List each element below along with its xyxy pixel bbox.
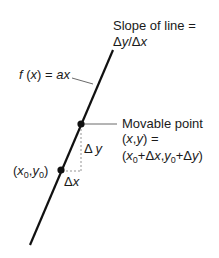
movable-point-label: Movable point (x,y) = (x0+Δx,y0+Δy) [122, 117, 203, 163]
slope-label-line2: Δy/Δx [113, 35, 196, 49]
initial-point-label: (x0,y0) [13, 164, 48, 178]
movable-point-title: Movable point [122, 117, 203, 131]
slope-label-line1: Slope of line = [113, 19, 196, 33]
delta-x-label: Δx [64, 175, 79, 189]
delta-y-label: Δ y [84, 142, 102, 156]
function-label-leader [72, 78, 93, 84]
movable-point-xy: (x,y) = [122, 132, 203, 146]
movable-point-expr: (x0+Δx,y0+Δy) [122, 149, 203, 163]
function-label: f (x) = ax [19, 68, 70, 82]
slope-label: Slope of line = Δy/Δx [113, 19, 196, 49]
movable-point-dot[interactable] [77, 120, 84, 127]
initial-point-dot [57, 166, 64, 173]
